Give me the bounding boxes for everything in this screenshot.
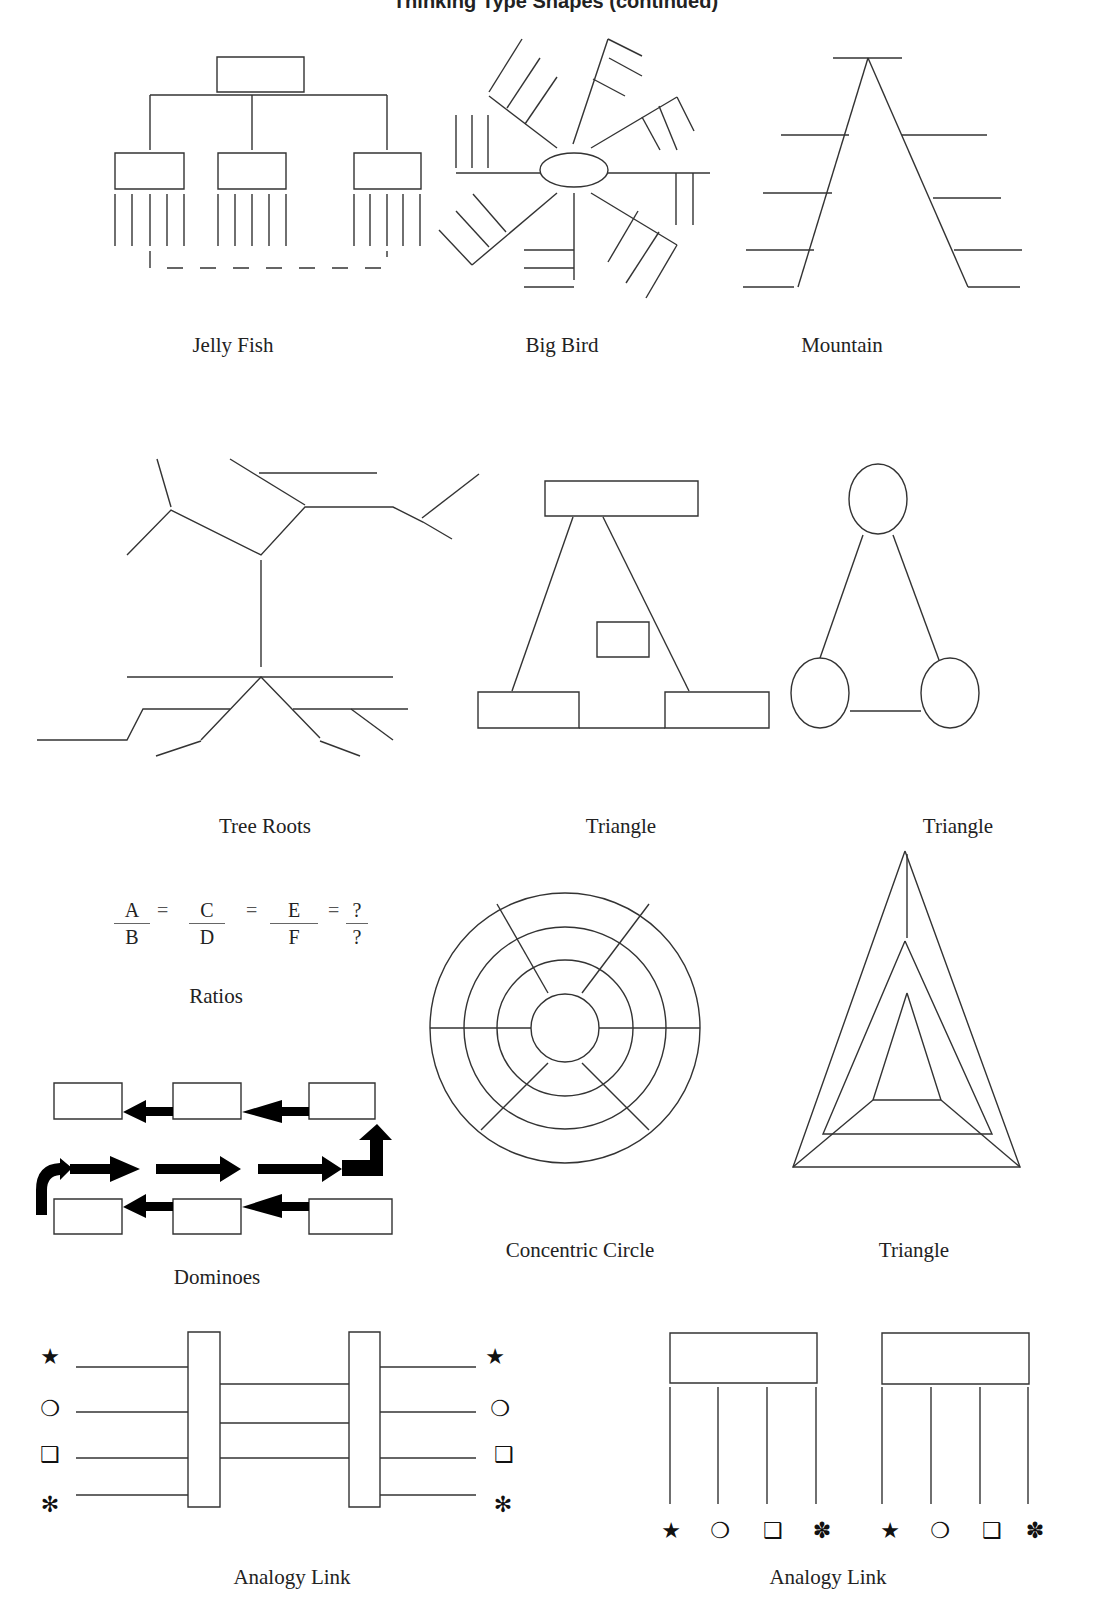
triangle-circles-diagram (791, 464, 979, 728)
ratio-fraction-4: ? ? (346, 899, 368, 949)
ratio-fraction-1: A B (114, 899, 150, 949)
jelly-fish-diagram (115, 57, 421, 268)
analogy-link-boxes-diagram (670, 1333, 1029, 1504)
asterisk-icon: ✻ (41, 1494, 59, 1516)
label-big-bird: Big Bird (526, 333, 599, 358)
big-bird-diagram (439, 39, 710, 298)
diagram-canvas (0, 0, 1111, 1614)
mountain-diagram (743, 58, 1022, 287)
star-icon: ★ (40, 1346, 60, 1368)
star-icon: ★ (661, 1520, 681, 1542)
label-ratios: Ratios (189, 984, 243, 1009)
circle-icon: ❍ (490, 1398, 510, 1420)
circle-icon: ❍ (40, 1398, 60, 1420)
circle-icon: ❍ (710, 1520, 730, 1542)
ratio-fraction-2: C D (189, 899, 225, 949)
label-analogy-link-bars: Analogy Link (233, 1565, 350, 1590)
equals-sign: = (328, 899, 339, 922)
square-icon: ❑ (40, 1444, 60, 1466)
tree-roots-diagram (37, 459, 479, 756)
label-tree-roots: Tree Roots (219, 814, 311, 839)
label-jelly-fish: Jelly Fish (192, 333, 273, 358)
nested-triangle-diagram (793, 851, 1020, 1167)
label-triangle-boxes: Triangle (586, 814, 656, 839)
star-icon: ★ (880, 1520, 900, 1542)
label-nested-triangle: Triangle (879, 1238, 949, 1263)
dominoes-diagram (36, 1083, 392, 1234)
flower-icon: ✽ (813, 1520, 831, 1542)
ratio-fraction-3: E F (270, 899, 318, 949)
label-analogy-link-boxes: Analogy Link (769, 1565, 886, 1590)
label-concentric-circle: Concentric Circle (506, 1238, 655, 1263)
asterisk-icon: ✻ (494, 1494, 512, 1516)
flower-icon: ✽ (1026, 1520, 1044, 1542)
square-icon: ❑ (982, 1520, 1002, 1542)
star-icon: ★ (485, 1346, 505, 1368)
label-mountain: Mountain (801, 333, 883, 358)
label-dominoes: Dominoes (174, 1265, 260, 1290)
equals-sign: = (157, 899, 168, 922)
label-triangle-circles: Triangle (923, 814, 993, 839)
triangle-boxes-diagram (478, 481, 769, 728)
analogy-link-bars-diagram (76, 1332, 476, 1507)
equals-sign: = (246, 899, 257, 922)
circle-icon: ❍ (930, 1520, 950, 1542)
concentric-circle-diagram (430, 893, 700, 1163)
square-icon: ❑ (494, 1444, 514, 1466)
square-icon: ❑ (763, 1520, 783, 1542)
